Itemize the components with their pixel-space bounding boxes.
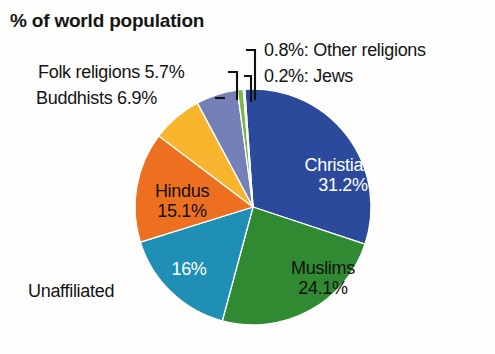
label-jews: 0.2%: Jews: [264, 66, 353, 87]
label-christians: Christians 31.2%: [287, 155, 399, 195]
label-unaffiliated-value: 16%: [159, 259, 219, 279]
label-christians-name: Christians: [287, 155, 399, 175]
label-buddhists: Buddhists 6.9%: [36, 88, 157, 109]
label-muslims: Muslims 24.1%: [268, 258, 378, 298]
label-hindus-value: 15.1%: [140, 201, 224, 221]
label-unaffiliated: Unaffiliated: [28, 281, 114, 302]
label-christians-value: 31.2%: [287, 175, 399, 195]
label-muslims-name: Muslims: [268, 258, 378, 278]
label-hindus-name: Hindus: [140, 181, 224, 201]
label-hindus: Hindus 15.1%: [140, 181, 224, 221]
pie-chart-figure: % of world population Folk religions 5.7…: [0, 0, 495, 354]
label-other-religions: 0.8%: Other religions: [264, 40, 426, 61]
label-folk-religions: Folk religions 5.7%: [38, 62, 184, 83]
label-muslims-value: 24.1%: [268, 278, 378, 298]
